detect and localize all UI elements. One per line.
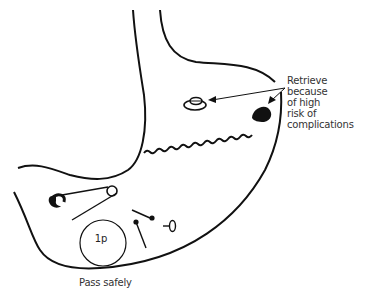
pass-safely-annotation: Pass safely	[79, 277, 132, 288]
retrieve-line-3: of high	[287, 97, 373, 108]
stomach-greater-curvature	[14, 10, 281, 268]
retrieve-line-5: complications	[287, 119, 373, 130]
retrieve-line-1: Retrieve	[287, 75, 373, 86]
stomach-diagram	[0, 0, 373, 303]
stomach-lesser-curvature	[18, 10, 145, 179]
retrieve-annotation: Retrieve because of high risk of complic…	[287, 75, 373, 130]
button-battery-icon	[184, 98, 206, 111]
safety-pin-icon	[49, 186, 117, 220]
coin-label: 1p	[88, 233, 114, 244]
needle-with-thread-icon	[144, 107, 271, 154]
retrieve-line-2: because	[287, 86, 373, 97]
pins-icon	[132, 210, 155, 248]
small-pin-icon	[163, 221, 176, 232]
retrieve-line-4: risk of	[287, 108, 373, 119]
retrieve-arrows	[208, 88, 285, 104]
